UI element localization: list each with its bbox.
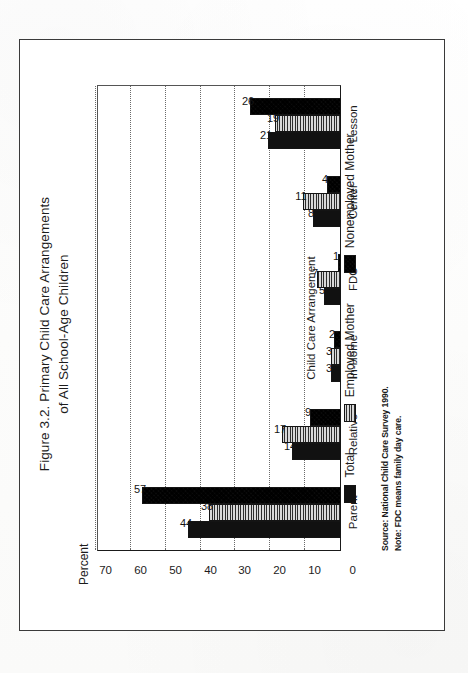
chart-canvas: Figure 3.2. Primary Child Care Arrangeme… (19, 39, 443, 629)
legend-item[interactable]: Total (343, 452, 357, 502)
gridline (95, 86, 96, 550)
bar: 8 (313, 210, 341, 227)
figure-title-line-2: of All School-Age Children (54, 39, 73, 629)
y-tick-label: 30 (221, 564, 251, 576)
y-tick-label: 0 (326, 564, 356, 576)
bar: 1 (338, 254, 341, 271)
y-tick-label: 10 (291, 564, 321, 576)
legend-item[interactable]: Nonemployed Mother (343, 133, 357, 273)
legend-label: Nonemployed Mother (343, 133, 357, 248)
y-tick-label: 70 (82, 564, 112, 576)
legend-swatch (344, 255, 356, 273)
bar: 2 (334, 331, 341, 348)
bar: 5 (324, 288, 341, 305)
chart-legend: TotalEmployed MotherNonemployed Mother (343, 85, 357, 551)
y-axis-tick-labels: 010203040506070 (97, 555, 341, 589)
bar: 44 (188, 521, 341, 538)
legend-swatch (344, 485, 356, 503)
bar: 38 (209, 504, 341, 521)
bar-value-label: 17 (274, 423, 286, 435)
bar: 4 (327, 176, 341, 193)
x-axis-title: Child Care Arrangement (305, 85, 317, 551)
scanned-page: Figure 3.2. Primary Child Care Arrangeme… (0, 0, 468, 673)
definition-note: Note: FDC means family day care. (392, 386, 405, 551)
rotated-figure-wrapper: Figure 3.2. Primary Child Care Arrangeme… (19, 39, 443, 629)
bar-value-label: 26 (242, 95, 254, 107)
bar-value-label: 1 (332, 250, 338, 262)
y-tick-label: 50 (152, 564, 182, 576)
bar-value-label: 57 (134, 483, 146, 495)
y-tick-label: 60 (117, 564, 147, 576)
bar-value-label: 44 (180, 517, 192, 529)
figure-title-line-1: Figure 3.2. Primary Child Care Arrangeme… (35, 39, 54, 629)
bar-value-label: 21 (260, 129, 272, 141)
bar-value-label: 3 (325, 345, 331, 357)
y-tick-label: 20 (256, 564, 286, 576)
figure-title: Figure 3.2. Primary Child Care Arrangeme… (35, 39, 73, 629)
source-note: Source: National Child Care Survey 1990. (379, 386, 392, 551)
bar: 3 (331, 348, 341, 365)
figure-notes: Source: National Child Care Survey 1990.… (379, 386, 405, 551)
legend-swatch (344, 404, 356, 422)
legend-label: Employed Mother (343, 303, 357, 397)
bar: 7 (317, 271, 341, 288)
bar-value-label: 2 (329, 328, 335, 340)
y-tick-label: 40 (187, 564, 217, 576)
bar: 26 (250, 98, 341, 115)
bar: 3 (331, 365, 341, 382)
legend-item[interactable]: Employed Mother (343, 303, 357, 422)
bar-value-label: 4 (322, 173, 328, 185)
legend-label: Total (343, 452, 357, 477)
